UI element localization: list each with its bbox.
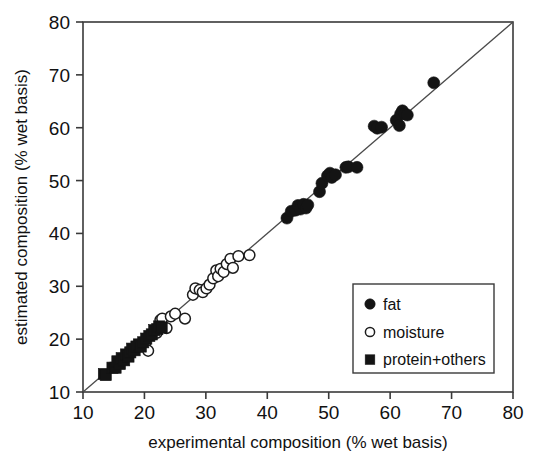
x-axis-tick-labels: 1020304050607080 <box>72 402 523 423</box>
x-tick-label: 20 <box>134 402 155 423</box>
x-tick-label: 40 <box>257 402 278 423</box>
y-tick-label: 10 <box>49 382 70 403</box>
data-point <box>393 120 405 132</box>
legend-label-moisture: moisture <box>383 324 444 341</box>
y-tick-label: 20 <box>49 329 70 350</box>
y-tick-label: 60 <box>49 118 70 139</box>
x-tick-label: 10 <box>72 402 93 423</box>
y-axis-tick-labels: 1020304050607080 <box>49 12 70 403</box>
legend: fat moisture protein+others <box>353 284 494 373</box>
filled-circle-icon <box>365 299 375 309</box>
y-axis-title: estimated composition (% wet basis) <box>12 69 31 345</box>
series-protein-others-points <box>98 321 167 381</box>
data-point <box>428 77 440 89</box>
x-tick-label: 50 <box>318 402 339 423</box>
y-axis-ticks <box>76 22 83 392</box>
legend-label-protein-others: protein+others <box>383 351 486 368</box>
data-point <box>233 251 244 262</box>
data-point <box>180 313 191 324</box>
x-axis-title: experimental composition (% wet basis) <box>148 433 448 452</box>
legend-item-protein-others: protein+others <box>365 351 486 368</box>
y-tick-label: 80 <box>49 12 70 33</box>
data-point <box>227 262 238 273</box>
y-tick-label: 70 <box>49 65 70 86</box>
x-tick-label: 80 <box>502 402 523 423</box>
chart-svg: 1020304050607080 1020304050607080 fat mo… <box>0 0 551 471</box>
data-point <box>329 169 341 181</box>
filled-square-icon <box>365 355 375 365</box>
x-tick-label: 70 <box>441 402 462 423</box>
series-fat-points <box>281 77 440 224</box>
data-point <box>302 199 314 211</box>
x-tick-label: 60 <box>380 402 401 423</box>
data-point <box>401 109 413 121</box>
y-tick-label: 50 <box>49 171 70 192</box>
x-tick-label: 30 <box>195 402 216 423</box>
legend-label-fat: fat <box>383 296 401 313</box>
y-tick-label: 30 <box>49 276 70 297</box>
open-circle-icon <box>365 327 374 336</box>
y-tick-label: 40 <box>49 223 70 244</box>
data-point <box>244 250 255 261</box>
x-axis-ticks <box>83 392 513 399</box>
data-point <box>156 322 167 333</box>
data-point <box>351 161 363 173</box>
data-point <box>376 121 388 133</box>
scatter-plot-figure: 1020304050607080 1020304050607080 fat mo… <box>0 0 551 471</box>
